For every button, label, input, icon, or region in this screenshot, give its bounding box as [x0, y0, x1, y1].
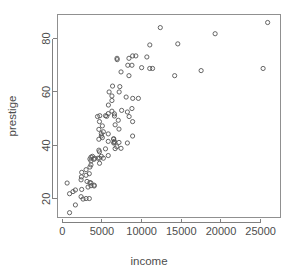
x-tick-label: 5000 [90, 225, 114, 237]
x-tick-label: 10000 [126, 225, 157, 237]
y-axis-title: prestige [6, 96, 18, 137]
plot-canvas: 0500010000150002000025000 20406080 incom… [0, 0, 298, 277]
x-tick-label: 0 [59, 225, 65, 237]
x-axis-title: income [130, 255, 167, 267]
y-tick-label: 40 [41, 139, 53, 151]
y-tick-label: 60 [41, 86, 53, 98]
x-tick-label: 15000 [166, 225, 197, 237]
x-tick-label: 25000 [245, 225, 276, 237]
y-tick-label: 20 [41, 193, 53, 205]
y-tick-label: 80 [41, 32, 53, 44]
x-tick-label: 20000 [206, 225, 237, 237]
scatterplot-figure: 0500010000150002000025000 20406080 incom… [0, 0, 298, 277]
